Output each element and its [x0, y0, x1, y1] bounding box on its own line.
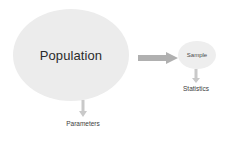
- sample-ellipse: Sample: [178, 41, 216, 69]
- population-label: Population: [40, 49, 102, 62]
- parameters-label: Parameters: [43, 121, 123, 128]
- sampling-arrow: [138, 50, 178, 62]
- statistics-arrow: [191, 69, 201, 83]
- statistics-label: Statistics: [166, 86, 225, 93]
- parameters-arrow: [78, 100, 88, 117]
- sample-label: Sample: [187, 52, 207, 58]
- diagram-canvas: Population Sample Parameters Statistics: [0, 0, 225, 141]
- population-ellipse: Population: [13, 9, 129, 101]
